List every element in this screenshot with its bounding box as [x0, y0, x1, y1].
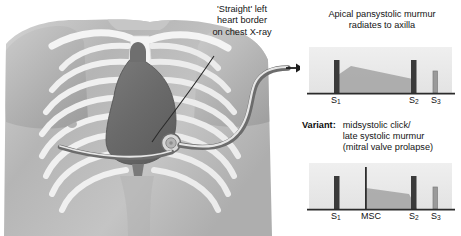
great-vessels: [130, 42, 146, 62]
sound-bar-s1: [334, 176, 340, 209]
panel-title-midsystolic-click: midsystolic click/ late systolic murmur …: [343, 120, 458, 154]
sound-bar-s3: [433, 187, 438, 209]
figure-root: 'Straight' left heart border on chest X-…: [0, 0, 461, 236]
panel-title-pansystolic: Apical pansystolic murmur radiates to ax…: [308, 9, 456, 31]
variant-label: Variant:: [302, 120, 336, 131]
sound-bar-s2: [411, 176, 417, 209]
axis-label-s3: S3: [431, 95, 441, 105]
sound-bar-s1: [334, 60, 340, 93]
heart-inferior-stub: [132, 164, 144, 176]
neck: [104, 0, 174, 30]
nipple-marker: [67, 120, 77, 128]
axis-label-s1: S1: [331, 95, 341, 105]
flow-arrow-icon: [286, 64, 300, 73]
sound-bar-s3: [433, 71, 438, 93]
sound-bar-msc: [365, 167, 367, 209]
annotation-straight-left-heart-border: 'Straight' left heart border on chest X-…: [186, 4, 298, 38]
axis-labels-pansystolic: S1 S2 S3: [305, 95, 457, 109]
axis-label-msc: MSC: [361, 211, 381, 221]
axis-labels-midsystolic-click: S1 MSC S2 S3: [305, 211, 457, 225]
stethoscope-chestpiece: [162, 134, 181, 153]
sound-bar-s2: [411, 60, 417, 93]
axis-label-s3: S3: [431, 211, 441, 221]
axis-label-s2: S2: [409, 211, 419, 221]
axis-label-s2: S2: [409, 95, 419, 105]
variant-title-block: Variant: midsystolic click/ late systoli…: [302, 120, 458, 154]
axis-label-s1: S1: [331, 211, 341, 221]
